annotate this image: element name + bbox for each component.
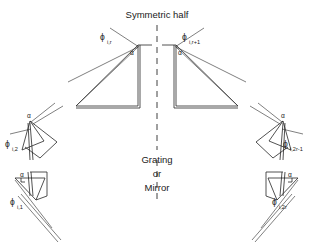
rays-bottom-right: [252, 180, 298, 242]
figure-title: Symmetric half: [126, 9, 189, 20]
rays-mid-left: [10, 103, 63, 134]
phi-mid-left-symbol: ϕ: [5, 139, 10, 149]
apex-angle-mid-left: α: [27, 112, 31, 119]
prism-top-right: [162, 45, 238, 108]
label-phi-bottom-right: ϕ i,2r: [272, 197, 287, 210]
apex-angle-bottom-right: α: [288, 171, 292, 178]
phi-mid-right-subscript: i,2r-1: [290, 146, 303, 152]
rays-bottom-left: [15, 180, 61, 242]
center-caption-line3: Mirror: [145, 182, 170, 193]
label-phi-top-right: ϕ i,r+1: [182, 32, 200, 45]
phi-top-right-subscript: i,r+1: [189, 39, 200, 45]
center-caption-line1: Grating: [141, 154, 172, 165]
label-phi-mid-left: ϕ i,2: [5, 139, 18, 152]
phi-bottom-left-symbol: ϕ: [10, 197, 15, 207]
rays-mid-right: [250, 103, 303, 134]
phi-top-right-symbol: ϕ: [182, 32, 187, 42]
phi-bottom-right-symbol: ϕ: [272, 197, 277, 207]
label-phi-top-left: ϕ i,r: [100, 32, 112, 45]
apex-angle-mid-right: α: [281, 112, 285, 119]
prism-mid-left: [22, 121, 57, 160]
phi-bottom-left-subscript: i,1: [17, 204, 23, 210]
center-caption-line2: or: [153, 168, 161, 179]
apex-angle-top-right: α: [178, 49, 182, 56]
label-phi-mid-right: ϕ i,2r-1: [283, 139, 303, 152]
phi-top-left-subscript: i,r: [107, 39, 112, 45]
phi-bottom-right-subscript: i,2r: [279, 204, 287, 210]
prism-top-left: [76, 45, 152, 108]
apex-angle-top-left: α: [130, 49, 134, 56]
phi-mid-right-symbol: ϕ: [283, 139, 288, 149]
phi-mid-left-subscript: i,2: [12, 146, 18, 152]
optical-ray-diagram: ϕ i,r α ϕ i,r+1 α ϕ i,2 α: [0, 0, 313, 242]
phi-top-left-symbol: ϕ: [100, 32, 105, 42]
apex-angle-bottom-left: α: [20, 171, 24, 178]
